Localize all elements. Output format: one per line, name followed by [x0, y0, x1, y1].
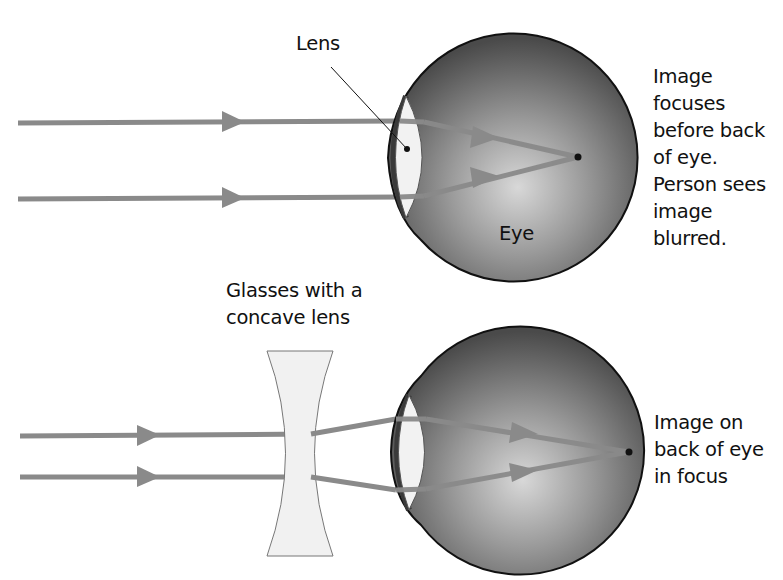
incoming-rays-top [18, 121, 400, 199]
diverged-rays-bottom [311, 419, 396, 490]
bottom-caption-line: back of eye [654, 436, 764, 463]
top-caption: Image focuses before back of eye. Person… [653, 63, 766, 252]
bottom-caption-line: in focus [654, 463, 764, 490]
lens-label: Lens [296, 30, 340, 57]
top-caption-line: image [653, 198, 766, 225]
glasses-label: Glasses with a concave lens [226, 277, 362, 331]
bottom-caption: Image on back of eye in focus [654, 409, 764, 490]
bottom-caption-line: Image on [654, 409, 764, 436]
lens-leader-line [331, 67, 407, 149]
lens-leader-dot [404, 146, 410, 152]
glasses-label-line: Glasses with a [226, 277, 362, 304]
top-caption-line: blurred. [653, 225, 766, 252]
incoming-rays-bottom [20, 434, 311, 477]
top-caption-line: before back [653, 117, 766, 144]
focal-point-top [575, 154, 582, 161]
bottom-panel [20, 327, 644, 575]
top-caption-line: focuses [653, 90, 766, 117]
top-caption-line: Image [653, 63, 766, 90]
top-caption-line: Person sees [653, 171, 766, 198]
concave-glasses-lens [267, 351, 333, 556]
top-panel [18, 34, 638, 282]
focal-point-bottom [626, 449, 633, 456]
ray-arrowheads-top [222, 111, 245, 208]
glasses-label-line: concave lens [226, 304, 362, 331]
ray-arrowheads-bottom [137, 425, 160, 487]
eye-label: Eye [499, 220, 534, 247]
top-caption-line: of eye. [653, 144, 766, 171]
